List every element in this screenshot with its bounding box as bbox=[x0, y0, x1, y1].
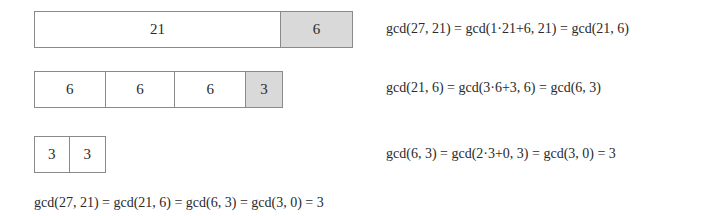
cell-6-b: 6 bbox=[106, 72, 176, 107]
cell-3-b: 3 bbox=[70, 137, 105, 172]
summary-equation: gcd(27, 21) = gcd(21, 6) = gcd(6, 3) = g… bbox=[34, 195, 324, 211]
cell-6-a: 6 bbox=[35, 72, 106, 107]
row-3-bar: 3 3 bbox=[34, 136, 106, 173]
cell-6-c: 6 bbox=[175, 72, 246, 107]
cell-remainder-3: 3 bbox=[246, 72, 282, 107]
cell-21: 21 bbox=[35, 12, 281, 47]
row-1-bar: 21 6 bbox=[34, 11, 353, 48]
equation-row-2: gcd(21, 6) = gcd(3·6+3, 6) = gcd(6, 3) bbox=[386, 80, 601, 96]
cell-3-a: 3 bbox=[35, 137, 70, 172]
row-2-bar: 6 6 6 3 bbox=[34, 71, 283, 108]
equation-row-1: gcd(27, 21) = gcd(1·21+6, 21) = gcd(21, … bbox=[386, 21, 629, 37]
equation-row-3: gcd(6, 3) = gcd(2·3+0, 3) = gcd(3, 0) = … bbox=[386, 146, 616, 162]
cell-remainder-6: 6 bbox=[281, 12, 352, 47]
